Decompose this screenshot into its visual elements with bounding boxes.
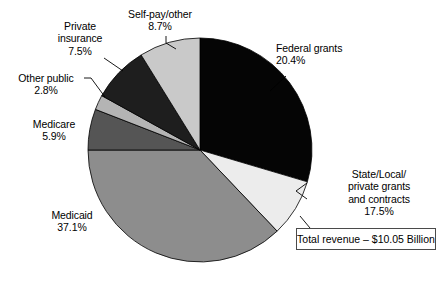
total-revenue-callout: Total revenue – $10.05 Billion [296, 228, 436, 250]
slice-label-federal-grants: Federal grants 20.4% [276, 42, 396, 67]
slice-label-other-public: Other public 2.8% [8, 72, 84, 97]
slice-label-private-insurance: Private insurance 7.5% [44, 20, 116, 57]
leader-line-other-public [84, 78, 105, 97]
leader-line-total-box [300, 216, 310, 228]
total-revenue-text: Total revenue – $10.05 Billion [297, 233, 435, 245]
slice-label-self-pay-other: Self-pay/other 8.7% [112, 8, 208, 33]
slice-label-medicare: Medicare 5.9% [18, 118, 90, 143]
slice-label-state-local: State/Local/ private grants and contract… [318, 168, 440, 218]
slice-label-medicaid: Medicaid 37.1% [32, 209, 112, 234]
pie-chart-figure: Federal grants 20.4% State/Local/ privat… [0, 0, 445, 286]
leader-line-private-insurance [104, 58, 123, 71]
pie-slices [88, 38, 312, 262]
